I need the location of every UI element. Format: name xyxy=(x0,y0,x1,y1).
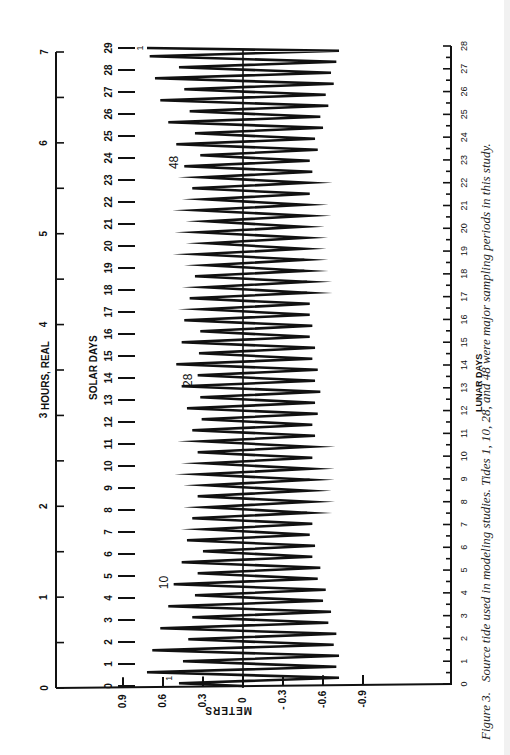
lunar-day-label: 2 xyxy=(459,636,469,641)
solar-day-label: 28 xyxy=(103,64,114,76)
solar-day-label: 21 xyxy=(103,218,114,230)
lunar-day-label: 24 xyxy=(459,132,469,142)
lunar-day-label: 4 xyxy=(459,590,469,595)
solar-day-label: 5 xyxy=(103,573,114,579)
solar-day-label: 14 xyxy=(103,372,114,384)
lunar-day-label: 13 xyxy=(459,383,469,393)
hours-tick-label: 2 xyxy=(39,503,50,509)
meters-axis-label: METERS xyxy=(204,705,252,716)
meters-tick-label: - 0.3 xyxy=(278,689,289,709)
figure-caption-text: Source tide used in modeling studies. Ti… xyxy=(478,143,493,682)
lunar-day-label: 10 xyxy=(459,451,469,461)
hours-tick-label: 1 xyxy=(39,594,50,600)
hours-tick-label: 7 xyxy=(39,49,50,55)
lunar-day-label: 23 xyxy=(459,155,469,165)
lunar-day-label: 25 xyxy=(459,109,469,119)
solar-day-label: 7 xyxy=(103,529,114,535)
solar-day-label: 20 xyxy=(103,240,114,252)
baseline xyxy=(56,684,452,688)
hours-tick-label: 4 xyxy=(39,321,50,327)
lunar-day-label: 11 xyxy=(459,429,469,438)
solar-day-label: 8 xyxy=(103,507,114,513)
lunar-day-label: 9 xyxy=(459,476,469,481)
lunar-day-label: 27 xyxy=(459,64,469,74)
lunar-day-label: 7 xyxy=(459,522,469,527)
meters-tick-label: 0 xyxy=(238,697,249,703)
lunar-days-axis: 0123456789101112131415161718192021222324… xyxy=(443,41,469,687)
lunar-day-label: 14 xyxy=(459,360,469,370)
solar-day-label: 1 xyxy=(103,661,114,667)
lunar-day-label: 1 xyxy=(459,659,469,664)
lunar-day-label: 26 xyxy=(459,87,469,97)
solar-day-label: 25 xyxy=(103,130,114,142)
solar-day-label: 19 xyxy=(103,262,114,274)
solar-day-label: 3 xyxy=(103,617,114,623)
solar-day-label: 6 xyxy=(103,551,114,557)
solar-day-label: 10 xyxy=(103,460,114,472)
solar-day-label: 26 xyxy=(103,108,114,120)
lunar-day-label: 17 xyxy=(459,292,469,302)
page-edge xyxy=(504,0,510,755)
hours-tick-label: 6 xyxy=(39,140,50,146)
solar-day-label: 23 xyxy=(103,174,114,186)
lunar-day-label: 16 xyxy=(459,314,469,324)
tide-annotation: 1 xyxy=(135,45,145,50)
tide-chart: 01234567 0123456789101112131415161718192… xyxy=(0,0,510,755)
lunar-day-label: 19 xyxy=(459,246,469,256)
lunar-day-label: 0 xyxy=(459,681,469,686)
lunar-day-label: 22 xyxy=(459,178,469,188)
hours-axis-label: HOURS, REAL xyxy=(40,341,51,410)
figure-number: Figure 3. xyxy=(478,692,493,740)
solar-day-label: 2 xyxy=(103,639,114,645)
solar-day-label: 24 xyxy=(103,152,114,164)
lunar-day-label: 6 xyxy=(459,545,469,550)
tide-annotation: 48 xyxy=(167,155,181,169)
lunar-day-label: 21 xyxy=(459,200,469,210)
meters-tick-label: -0.6 xyxy=(318,690,329,708)
tide-annotation: 1 xyxy=(164,676,174,681)
solar-day-label: 11 xyxy=(103,438,114,449)
lunar-day-label: 12 xyxy=(459,406,469,416)
solar-day-label: 15 xyxy=(103,350,114,362)
solar-days-axis: 0123456789101112131415161718192021222324… xyxy=(103,42,136,689)
solar-day-label: 4 xyxy=(103,595,114,601)
lunar-day-label: 20 xyxy=(459,223,469,233)
lunar-day-label: 5 xyxy=(459,568,469,573)
solar-day-label: 29 xyxy=(103,42,114,54)
solar-day-label: 13 xyxy=(103,394,114,406)
solar-day-label: 18 xyxy=(103,284,114,296)
solar-day-label: 17 xyxy=(103,306,114,318)
solar-day-label: 22 xyxy=(103,196,114,208)
solar-day-label: 9 xyxy=(103,485,114,491)
meters-tick-label: 0.6 xyxy=(158,694,169,708)
lunar-day-label: 28 xyxy=(459,41,469,51)
solar-days-axis-label: SOLAR DAYS xyxy=(88,335,99,400)
solar-day-label: 0 xyxy=(103,683,114,689)
hours-tick-label: 5 xyxy=(39,230,50,236)
lunar-day-label: 8 xyxy=(459,499,469,504)
hours-tick-label: 3 xyxy=(39,412,50,418)
tide-annotation: 10 xyxy=(157,576,171,590)
solar-day-label: 27 xyxy=(103,86,114,98)
meters-tick-label: 0.9 xyxy=(118,694,129,708)
solar-day-label: 16 xyxy=(103,328,114,340)
solar-day-label: 12 xyxy=(103,416,114,428)
tide-annotation: 28 xyxy=(181,373,195,387)
hours-tick-label: 0 xyxy=(39,685,50,691)
lunar-day-label: 18 xyxy=(459,269,469,279)
lunar-day-label: 15 xyxy=(459,337,469,347)
figure-caption: Figure 3.Source tide used in modeling st… xyxy=(478,143,494,740)
lunar-day-label: 3 xyxy=(459,613,469,618)
meters-tick-label: -0.9 xyxy=(358,690,369,708)
